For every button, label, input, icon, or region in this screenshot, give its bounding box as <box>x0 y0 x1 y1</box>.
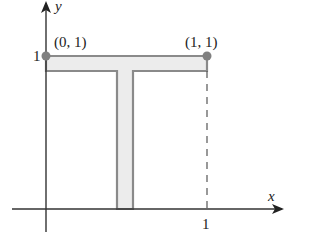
x-axis-label: x <box>267 188 275 204</box>
point-0-1 <box>42 52 51 61</box>
y-axis-label: y <box>53 0 62 14</box>
point-label-1-1: (1, 1) <box>185 34 218 51</box>
t-shape-region <box>46 56 207 209</box>
y-tick-label: 1 <box>33 48 41 64</box>
point-1-1 <box>203 52 212 61</box>
x-tick-label: 1 <box>202 216 210 232</box>
point-label-0-1: (0, 1) <box>54 34 87 51</box>
t-region-diagram: y x 1 1 (0, 1) (1, 1) <box>0 0 318 234</box>
